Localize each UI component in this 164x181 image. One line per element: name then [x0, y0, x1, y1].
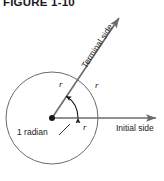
angle-measure-label: 1 radian: [17, 127, 48, 137]
angle-arc: [66, 96, 78, 118]
initial-side-label: Initial side: [116, 123, 154, 133]
radius-label-initial: r: [83, 122, 87, 132]
leader-line-icon: [59, 124, 70, 135]
radius-label-terminal: r: [59, 79, 63, 89]
vertex-dot-icon: [49, 115, 55, 121]
figure-container: FIGURE 1-10 Termin: [0, 0, 164, 181]
radian-diagram: [0, 0, 164, 181]
radius-label-arc: r: [95, 80, 99, 90]
